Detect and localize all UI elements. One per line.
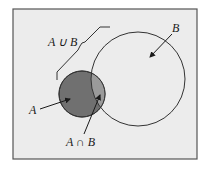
label-b: B bbox=[172, 21, 180, 35]
label-union: A ∪ B bbox=[47, 35, 78, 49]
label-a: A bbox=[28, 103, 37, 117]
label-intersection: A ∩ B bbox=[65, 135, 96, 149]
venn-diagram: A ∪ B B A A ∩ B bbox=[0, 0, 212, 171]
universe-frame bbox=[13, 9, 197, 159]
